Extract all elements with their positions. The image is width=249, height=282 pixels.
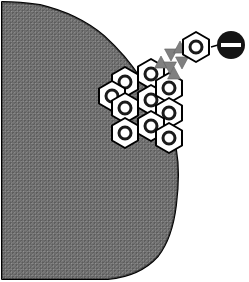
ligand-connector-line [211, 45, 218, 47]
receptor-inner-ring [119, 102, 131, 114]
receptor-hexagon [112, 118, 138, 148]
receptor-inner-ring [163, 132, 175, 144]
receptor-inner-ring [145, 68, 157, 80]
diagram-svg [0, 0, 249, 282]
receptor-hexagon [156, 123, 182, 153]
ligand-black-disc [217, 31, 245, 59]
receptor-inner-ring [163, 107, 175, 119]
free-receptor-inner-ring [190, 41, 202, 53]
receptor-inner-ring [163, 82, 175, 94]
receptor-inner-ring [119, 127, 131, 139]
figure-canvas [0, 0, 249, 282]
ligand-bar [221, 43, 241, 47]
free-receptor-hexagon [183, 32, 209, 62]
signal-triangle [176, 57, 189, 69]
